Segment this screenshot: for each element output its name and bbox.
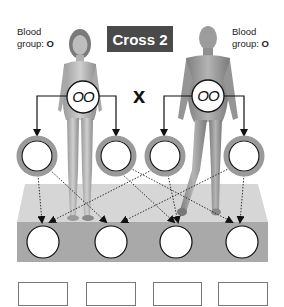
father-label-line1: Blood xyxy=(232,26,269,38)
offspring-phenotype-box-2[interactable] xyxy=(86,282,136,306)
mother-label-line2: group: O xyxy=(17,38,54,50)
mother-genotype: OO xyxy=(67,88,99,105)
father-blood-group-value: O xyxy=(262,38,269,49)
gamete-circles xyxy=(19,138,262,174)
offspring-phenotype-box-3[interactable] xyxy=(153,282,202,306)
offspring-phenotype-box-4[interactable] xyxy=(218,282,268,306)
father-label-line2: group: O xyxy=(232,38,269,50)
father-blood-group-label: Blood group: O xyxy=(232,26,269,50)
father-label-prefix: group: xyxy=(232,38,262,49)
cross-title: Cross 2 xyxy=(107,26,173,52)
mother-label-prefix: group: xyxy=(17,38,47,49)
mother-label-line1: Blood xyxy=(17,26,54,38)
mother-blood-group-label: Blood group: O xyxy=(17,26,54,50)
father-genotype: OO xyxy=(192,87,224,104)
mother-blood-group-value: O xyxy=(47,38,54,49)
offspring-phenotype-box-1[interactable] xyxy=(18,282,68,306)
cross-symbol: x xyxy=(133,84,145,108)
